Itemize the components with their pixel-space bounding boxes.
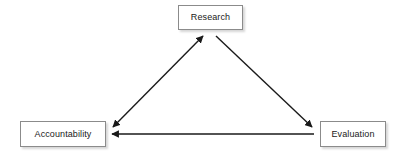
node-accountability[interactable]: Accountability	[20, 121, 106, 147]
node-research[interactable]: Research	[178, 5, 243, 30]
connector-accountability-research	[113, 36, 203, 127]
node-research-label: Research	[191, 13, 230, 22]
diagram-canvas: Research Accountability Evaluation	[0, 0, 400, 157]
connector-research-evaluation	[216, 36, 312, 127]
node-evaluation[interactable]: Evaluation	[320, 121, 386, 147]
node-accountability-label: Accountability	[35, 130, 92, 139]
node-evaluation-label: Evaluation	[331, 130, 374, 139]
